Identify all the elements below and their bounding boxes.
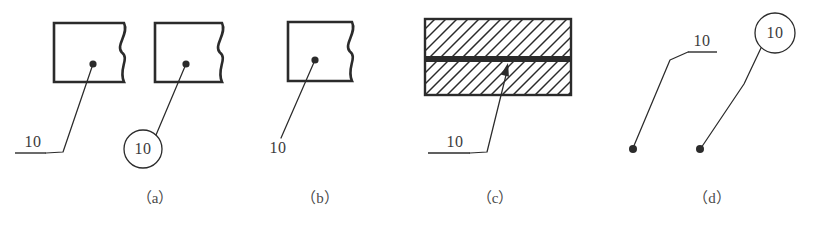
- panel-c-item-1-section-hatch-line: [623, 19, 699, 95]
- panel-b-item-1-broken-rect: [288, 22, 353, 81]
- artwork-layer: [15, 13, 795, 168]
- panel-c-item-1-section-hatch-line: [656, 19, 732, 95]
- panel-c-item-1-section-interlayer-band: [425, 56, 571, 62]
- panel-c-item-1-section-hatch-line: [568, 19, 644, 95]
- panel-c-item-1-section-hatch-line: [579, 19, 655, 95]
- panel-a-item-2-reference-dot: [182, 60, 189, 67]
- panel-d-item-1-reference-dot: [629, 145, 637, 153]
- panel-c-item-1-section-hatch-line: [645, 19, 721, 95]
- panel-d-item-1-leader-line: [633, 52, 688, 148]
- panel-caption-c: （c）: [477, 186, 514, 207]
- panel-caption-b: （b）: [301, 186, 339, 207]
- panel-d-item-2-reference-dot: [696, 145, 704, 153]
- panel-a-item-2-broken-rect: [155, 23, 223, 82]
- panel-d-item-1-number-label: 10: [694, 32, 711, 50]
- panel-c-item-1-section-hatch-line: [326, 19, 402, 95]
- figure-root: 1010（a）10（b）10（c）1010（d）: [0, 0, 813, 225]
- panel-b-item-1-reference-dot: [311, 56, 318, 63]
- panel-c-item-1-section-hatch-line: [601, 19, 677, 95]
- panel-a-item-2-leader-line: [156, 64, 186, 135]
- panel-c-item-1-section-hatch-line: [348, 19, 424, 95]
- panel-d-item-2-number-label: 10: [767, 24, 784, 42]
- panel-c-item-1-leader-line: [470, 67, 508, 153]
- panel-c-item-1-section-hatch-line: [634, 19, 710, 95]
- panel-c-item-1-number-label: 10: [447, 133, 464, 151]
- panel-caption-d: （d）: [693, 186, 731, 207]
- panel-a-item-1-reference-dot: [89, 60, 96, 67]
- panel-d-item-2-leader-line: [701, 48, 761, 148]
- panel-c-item-1-section-hatch-line: [667, 19, 743, 95]
- panel-c-item-1-section-hatch-line: [359, 19, 435, 95]
- panel-b-item-1-leader-line: [281, 60, 315, 138]
- panel-c-item-1-arrowhead: [501, 63, 509, 77]
- panel-c-item-1-section-hatch-line: [590, 19, 666, 95]
- panel-b-item-1-number-label: 10: [270, 139, 287, 157]
- figure-artwork: [0, 0, 813, 225]
- panel-a-item-1-number-label: 10: [25, 133, 42, 151]
- panel-caption-a: （a）: [137, 186, 174, 207]
- panel-c-item-1-section-hatch-line: [337, 19, 413, 95]
- panel-a-item-2-number-label: 10: [135, 140, 152, 158]
